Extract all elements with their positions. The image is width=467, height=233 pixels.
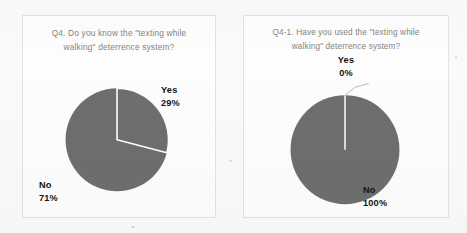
- pie-label-yes-q4-1: Yes 0%: [325, 54, 367, 79]
- scan-speck: [455, 55, 457, 59]
- scan-speck: [131, 226, 135, 228]
- pie-slice-no-q4: [66, 88, 169, 191]
- chart-title-q4: Q4. Do you know the "texting while walki…: [23, 26, 215, 54]
- pie-label-no-q4: No 71%: [39, 179, 58, 204]
- pie-leader-line-q4-1: [345, 83, 369, 95]
- chart-panel-q4-1: Q4-1. Have you used the "texting while w…: [243, 15, 449, 218]
- screenshot-canvas: Q4. Do you know the "texting while walki…: [0, 0, 467, 233]
- chart-title-q4-1: Q4-1. Have you used the "texting while w…: [244, 26, 448, 54]
- scan-speck: [229, 160, 232, 162]
- chart-panel-q4: Q4. Do you know the "texting while walki…: [22, 15, 216, 218]
- pie-label-yes-q4: Yes 29%: [161, 84, 180, 109]
- pie-label-no-q4-1: No 100%: [363, 184, 387, 209]
